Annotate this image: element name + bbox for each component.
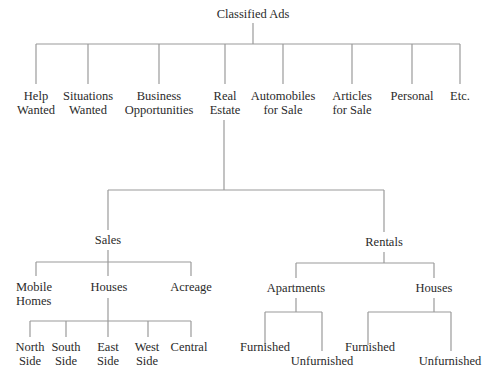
node-articles-for-sale: Articles for Sale (332, 89, 372, 117)
node-acreage: Acreage (170, 280, 212, 294)
node-etc: Etc. (450, 89, 470, 103)
node-label: Furnished (240, 340, 290, 354)
node-label: Rentals (365, 235, 403, 249)
node-east-side: East Side (97, 340, 119, 368)
node-label-line2: Side (97, 354, 119, 368)
classified-ads-tree-diagram: Classified Ads Help Wanted Situations Wa… (0, 0, 484, 379)
node-apartments: Apartments (267, 281, 325, 295)
node-label-line1: Mobile (16, 280, 52, 294)
node-west-side: West Side (135, 340, 160, 368)
node-label: Classified Ads (217, 7, 290, 21)
node-label: Unfurnished (419, 354, 482, 368)
node-label-line1: Etc. (450, 89, 470, 103)
node-rentals: Rentals (365, 235, 403, 249)
node-label-line1: Real (210, 89, 241, 103)
node-south-side: South Side (51, 340, 80, 368)
node-label-line2: Wanted (63, 103, 113, 117)
node-personal: Personal (390, 89, 433, 103)
node-label-line2: Wanted (17, 103, 55, 117)
node-houses-furnished: Furnished (345, 340, 395, 354)
node-sales-houses: Houses (91, 280, 128, 294)
node-label-line1: West (135, 340, 160, 354)
node-mobile-homes: Mobile Homes (16, 280, 52, 308)
node-label: Sales (95, 233, 121, 247)
node-label-line1: Houses (91, 280, 128, 294)
node-label-line2: Opportunities (125, 103, 194, 117)
node-label-line1: Central (171, 340, 208, 354)
node-label-line2: Homes (16, 294, 52, 308)
node-apartments-unfurnished: Unfurnished (291, 354, 354, 368)
node-sales: Sales (95, 233, 121, 247)
node-label-line1: Personal (390, 89, 433, 103)
node-label-line1: Situations (63, 89, 113, 103)
node-north-side: North Side (15, 340, 44, 368)
node-apartments-furnished: Furnished (240, 340, 290, 354)
node-real-estate: Real Estate (210, 89, 241, 117)
node-business-opportunities: Business Opportunities (125, 89, 194, 117)
node-rental-houses: Houses (416, 281, 453, 295)
node-houses-unfurnished: Unfurnished (419, 354, 482, 368)
node-label: Houses (416, 281, 453, 295)
node-label-line2: Side (135, 354, 160, 368)
node-classified-ads: Classified Ads (217, 7, 290, 21)
node-label: Unfurnished (291, 354, 354, 368)
node-label-line1: South (51, 340, 80, 354)
node-label-line2: for Sale (332, 103, 372, 117)
node-label-line1: Help (17, 89, 55, 103)
node-label-line2: Side (51, 354, 80, 368)
node-label: Furnished (345, 340, 395, 354)
node-label-line2: Estate (210, 103, 241, 117)
node-label-line1: Automobiles (251, 89, 316, 103)
node-label-line1: Articles (332, 89, 372, 103)
node-label-line1: Business (125, 89, 194, 103)
node-label-line1: East (97, 340, 119, 354)
node-label-line2: Side (15, 354, 44, 368)
node-help-wanted: Help Wanted (17, 89, 55, 117)
node-situations-wanted: Situations Wanted (63, 89, 113, 117)
node-central: Central (171, 340, 208, 354)
node-label: Apartments (267, 281, 325, 295)
connector-lines (0, 0, 484, 379)
node-label-line1: Acreage (170, 280, 212, 294)
node-label-line1: North (15, 340, 44, 354)
node-automobiles-for-sale: Automobiles for Sale (251, 89, 316, 117)
node-label-line2: for Sale (251, 103, 316, 117)
